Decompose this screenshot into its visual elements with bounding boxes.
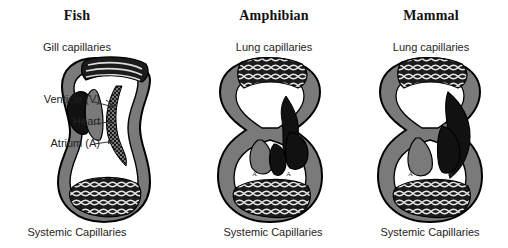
mammal-diagram: A A V V xyxy=(350,0,508,248)
mark-atrium-right: A xyxy=(286,170,291,178)
mark-atrium-left: A xyxy=(252,170,257,178)
mark-atrium-left: A xyxy=(408,170,413,178)
label-atrium: Atrium (A) xyxy=(4,132,100,154)
fish-heart-label-group: Venticle (V) Heart Atrium (A) xyxy=(4,88,100,154)
label-heart: Heart xyxy=(4,110,100,132)
panel-mammal: Mammal Lung capillaries Systemic Capilla… xyxy=(350,0,508,248)
label-ventricle: Venticle (V) xyxy=(4,88,100,110)
panel-amphibian: Amphibian Lung capillaries Systemic Capi… xyxy=(190,0,350,248)
amphibian-diagram: A A V xyxy=(190,0,350,248)
mark-atrium-right: A xyxy=(448,170,453,178)
panel-fish: Fish Gill capillaries Systemic Capillari… xyxy=(0,0,190,248)
circulatory-systems-figure: Fish Gill capillaries Systemic Capillari… xyxy=(0,0,508,248)
heart-leader-lines xyxy=(94,92,134,156)
